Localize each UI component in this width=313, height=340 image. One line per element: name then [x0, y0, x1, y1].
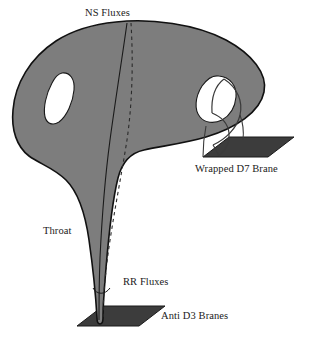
anti-d3-brane-plane	[77, 306, 165, 326]
label-ns-fluxes: NS Fluxes	[85, 8, 130, 19]
label-anti-d3-branes: Anti D3 Branes	[161, 311, 228, 322]
figure-canvas: NS Fluxes Wrapped D7 Brane Throat RR Flu…	[0, 0, 313, 340]
label-wrapped-d7-brane: Wrapped D7 Brane	[195, 164, 278, 175]
label-throat: Throat	[43, 226, 72, 237]
d7-brane-plane	[203, 137, 294, 157]
label-rr-fluxes: RR Fluxes	[123, 277, 169, 288]
